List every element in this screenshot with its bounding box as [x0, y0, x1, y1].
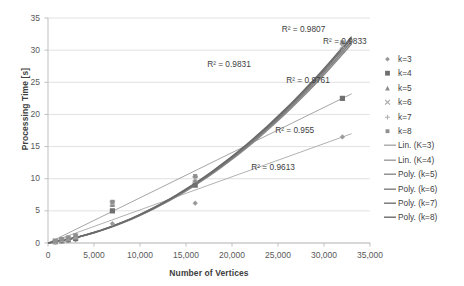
legend-item[interactable]: Poly. (k=6): [383, 182, 464, 196]
r-squared-label: R² = 0.9613: [251, 162, 295, 172]
legend-item[interactable]: k=8: [383, 124, 464, 138]
data-point-marker: [385, 100, 390, 105]
legend-marker-small-square-icon: [383, 124, 398, 138]
data-point-marker: [53, 239, 57, 243]
trendline-linear: [48, 94, 352, 243]
legend-label: k=8: [398, 124, 412, 138]
legend-label: k=4: [398, 66, 412, 80]
legend-item[interactable]: k=7: [383, 110, 464, 124]
legend-marker-line-icon: [383, 182, 398, 196]
data-point-marker: [386, 129, 390, 133]
gridlines: [48, 18, 370, 243]
trendline-poly: [48, 41, 352, 243]
legend-item[interactable]: Poly. (k=7): [383, 196, 464, 210]
legend-marker-line-icon: [383, 210, 398, 224]
data-point-marker: [66, 235, 70, 239]
data-point-marker: [60, 237, 64, 241]
data-point-marker: [110, 200, 114, 204]
legend-label: Lin. (K=4): [398, 153, 434, 167]
data-point-marker: [193, 174, 197, 178]
legend-label: k=7: [398, 110, 412, 124]
data-point-marker: [193, 183, 198, 188]
trendline-poly: [48, 37, 352, 243]
legend-item[interactable]: Lin. (K=3): [383, 138, 464, 152]
r-squared-label: R² = 0.9761: [286, 75, 330, 85]
r-squared-label: R² = 0.955: [275, 125, 314, 135]
legend-marker-cross-icon: [383, 95, 398, 109]
legend-marker-square-icon: [383, 66, 398, 80]
trendline-poly: [48, 39, 352, 243]
data-point-marker: [385, 114, 390, 119]
legend-label: k=6: [398, 95, 412, 109]
data-point-marker: [193, 201, 198, 206]
legend-label: Poly. (k=8): [398, 210, 437, 224]
trendline-linear: [48, 134, 352, 243]
legend-item[interactable]: Poly. (k=8): [383, 210, 464, 224]
data-point-marker: [385, 71, 390, 76]
legend-label: k=3: [398, 52, 412, 66]
data-point-marker: [340, 96, 345, 101]
legend-label: Poly. (k=5): [398, 167, 437, 181]
legend-label: Lin. (K=3): [398, 138, 434, 152]
legend-item[interactable]: k=6: [383, 95, 464, 109]
legend-item[interactable]: Lin. (K=4): [383, 153, 464, 167]
legend-marker-plus-icon: [383, 110, 398, 124]
data-point-marker: [340, 134, 345, 139]
r-squared-label: R² = 0.9807: [282, 24, 326, 34]
legend-item[interactable]: k=3: [383, 52, 464, 66]
legend-marker-line-icon: [383, 196, 398, 210]
data-point-marker: [74, 233, 78, 237]
data-point-marker: [385, 57, 390, 62]
legend-item[interactable]: Poly. (k=5): [383, 167, 464, 181]
chart-container: Processing Time [s] Number of Vertices 0…: [0, 0, 464, 286]
data-point-marker: [110, 208, 115, 213]
data-point-marker: [385, 86, 390, 91]
r-squared-label: R² = 0.9831: [207, 59, 251, 69]
legend-marker-line-icon: [383, 138, 398, 152]
legend-label: Poly. (k=7): [398, 196, 437, 210]
legend-label: k=5: [398, 81, 412, 95]
axis-lines: [45, 18, 371, 247]
legend-marker-line-icon: [383, 167, 398, 181]
legend-label: Poly. (k=6): [398, 182, 437, 196]
legend-item[interactable]: k=4: [383, 66, 464, 80]
data-points: [53, 40, 345, 244]
legend-marker-diamond-icon: [383, 52, 398, 66]
legend-item[interactable]: k=5: [383, 81, 464, 95]
trendline-poly: [48, 44, 352, 243]
legend: k=3k=4k=5k=6k=7k=8Lin. (K=3)Lin. (K=4)Po…: [383, 52, 464, 225]
r-squared-label: R² = 0.9833: [323, 36, 367, 46]
legend-marker-line-icon: [383, 153, 398, 167]
trendlines: [48, 37, 352, 243]
legend-marker-triangle-icon: [383, 81, 398, 95]
